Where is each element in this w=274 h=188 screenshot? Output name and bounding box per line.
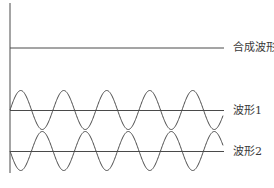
composite-wave-label: 合成波形 [233, 42, 274, 54]
waveform-diagram [0, 0, 274, 188]
wave1-label: 波形1 [233, 105, 262, 117]
wave2-label: 波形2 [233, 146, 262, 158]
